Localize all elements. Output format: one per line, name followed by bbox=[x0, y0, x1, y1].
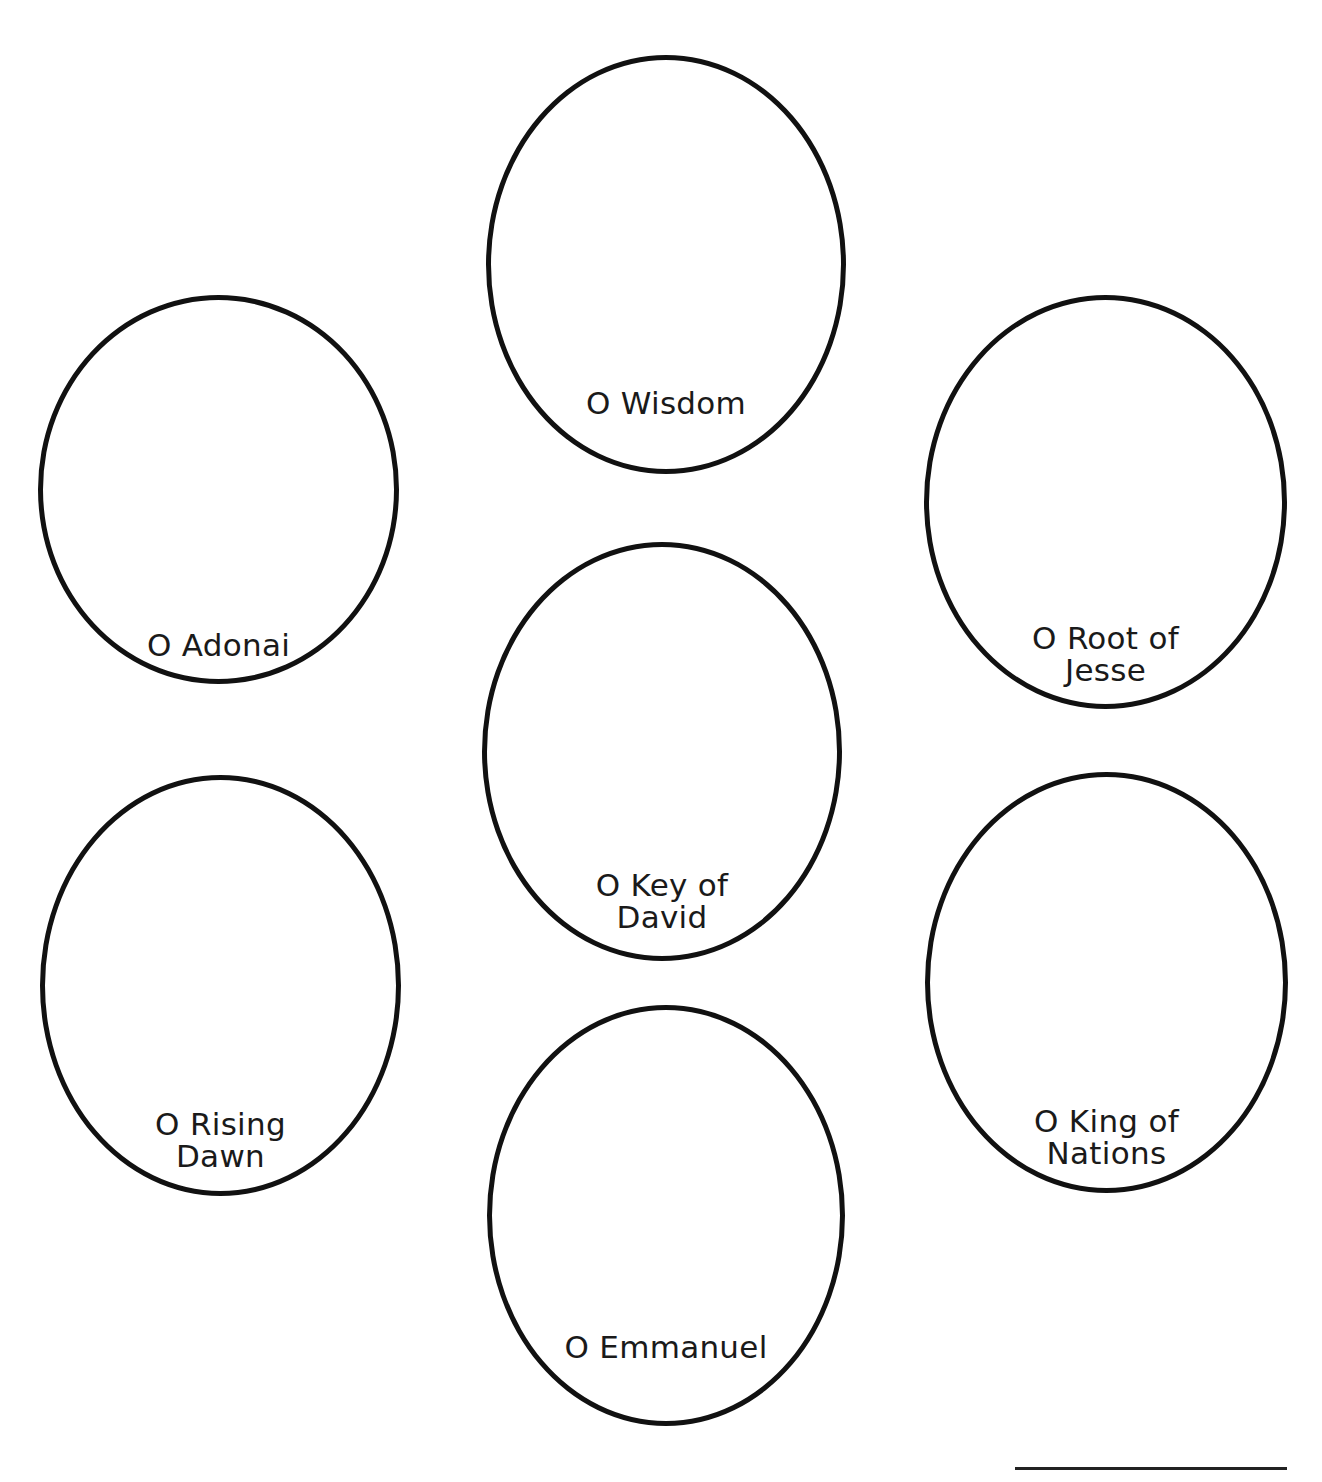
label-line: O Rising bbox=[45, 1108, 396, 1140]
label-line: Jesse bbox=[929, 654, 1282, 686]
label-line: David bbox=[487, 901, 837, 933]
oval-label-o-king-of-nations: O King of Nations bbox=[930, 1105, 1283, 1169]
oval-label-o-rising-dawn: O Rising Dawn bbox=[45, 1108, 396, 1172]
label-line: O Root of bbox=[929, 622, 1282, 654]
label-line: Dawn bbox=[45, 1140, 396, 1172]
label-line: O Wisdom bbox=[491, 387, 841, 419]
label-line: Nations bbox=[930, 1137, 1283, 1169]
oval-o-wisdom: O Wisdom bbox=[486, 55, 846, 474]
oval-label-o-wisdom: O Wisdom bbox=[491, 387, 841, 419]
oval-label-o-key-of-david: O Key of David bbox=[487, 869, 837, 933]
oval-o-rising-dawn: O Rising Dawn bbox=[40, 775, 401, 1196]
oval-o-emmanuel: O Emmanuel bbox=[487, 1005, 845, 1426]
oval-label-o-adonai: O Adonai bbox=[43, 629, 394, 661]
oval-o-root-of-jesse: O Root of Jesse bbox=[924, 295, 1287, 709]
label-line: O Adonai bbox=[43, 629, 394, 661]
label-line: O Emmanuel bbox=[492, 1331, 840, 1363]
label-line: O King of bbox=[930, 1105, 1283, 1137]
oval-o-adonai: O Adonai bbox=[38, 295, 399, 684]
oval-o-king-of-nations: O King of Nations bbox=[925, 772, 1288, 1193]
answer-underline bbox=[1015, 1467, 1287, 1470]
label-line: O Key of bbox=[487, 869, 837, 901]
oval-label-o-root-of-jesse: O Root of Jesse bbox=[929, 622, 1282, 686]
oval-label-o-emmanuel: O Emmanuel bbox=[492, 1331, 840, 1363]
oval-o-key-of-david: O Key of David bbox=[482, 542, 842, 961]
